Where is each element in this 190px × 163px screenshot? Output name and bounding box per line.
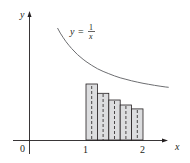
- y-axis-arrow-icon: [28, 11, 32, 17]
- x-axis-arrow-icon: [162, 139, 168, 143]
- function-label-denominator: x: [88, 32, 93, 41]
- function-label-numerator: 1: [89, 23, 93, 32]
- function-label-eq: =: [78, 26, 84, 37]
- function-label-lhs: y: [69, 26, 75, 37]
- riemann-sum-figure: y x 0 1 2 y = 1 x: [0, 0, 190, 163]
- tick-label-1: 1: [83, 144, 88, 155]
- x-axis-label: x: [174, 141, 180, 152]
- function-label: y = 1 x: [69, 23, 95, 41]
- y-axis-label: y: [19, 9, 25, 20]
- tick-label-2: 2: [140, 144, 145, 155]
- origin-label: 0: [20, 143, 25, 154]
